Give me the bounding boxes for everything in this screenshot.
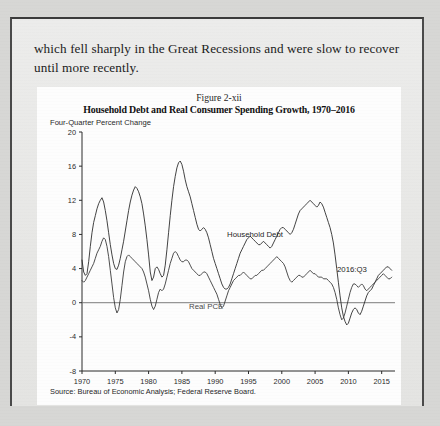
line-chart: -8-4048121620197019751980198519901995200… — [37, 87, 401, 405]
svg-text:2015: 2015 — [373, 377, 389, 386]
body-paragraph: which fell sharply in the Great Recessio… — [34, 39, 406, 77]
svg-text:1985: 1985 — [174, 377, 190, 386]
svg-text:16: 16 — [68, 162, 76, 171]
svg-text:20: 20 — [68, 128, 76, 137]
svg-text:1990: 1990 — [207, 377, 223, 386]
svg-text:4: 4 — [72, 264, 76, 273]
tick-label-group: -8-4048121620197019751980198519901995200… — [68, 128, 390, 386]
svg-text:-4: -4 — [69, 332, 76, 341]
page-surface: which fell sharply in the Great Recessio… — [12, 19, 422, 406]
svg-text:8: 8 — [72, 230, 76, 239]
series-line-real-pce — [82, 238, 392, 320]
svg-text:12: 12 — [68, 196, 76, 205]
annotation-household-debt: Household Debt — [227, 230, 283, 239]
page-sheet: which fell sharply in the Great Recessio… — [10, 17, 424, 406]
figure-source-note: Source: Bureau of Economic Analysis; Fed… — [50, 387, 256, 396]
series-line-household-debt — [82, 161, 392, 325]
plot-area: -8-4048121620197019751980198519901995200… — [37, 87, 401, 405]
svg-text:1980: 1980 — [140, 377, 156, 386]
svg-text:1970: 1970 — [74, 377, 90, 386]
svg-text:0: 0 — [72, 298, 76, 307]
figure-panel: Figure 2-xii Household Debt and Real Con… — [37, 87, 401, 405]
annotation-last-point: 2016:Q3 — [337, 265, 367, 274]
axis-group — [79, 132, 395, 374]
svg-text:2005: 2005 — [307, 377, 323, 386]
svg-text:2000: 2000 — [274, 377, 290, 386]
svg-text:2010: 2010 — [340, 377, 356, 386]
annotation-real-pce: Real PCE — [189, 302, 223, 311]
svg-text:-8: -8 — [69, 367, 76, 376]
svg-text:1995: 1995 — [240, 377, 256, 386]
scanned-page: which fell sharply in the Great Recessio… — [0, 0, 440, 426]
svg-text:1975: 1975 — [107, 377, 123, 386]
